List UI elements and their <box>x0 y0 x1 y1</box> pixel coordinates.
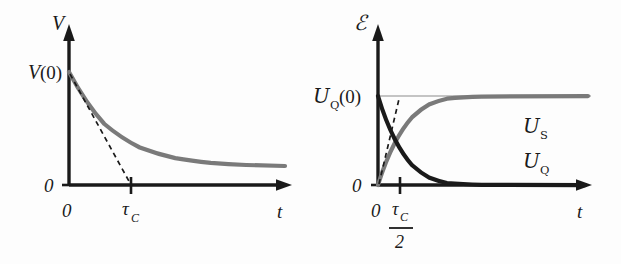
y-axis-label: V <box>52 12 67 34</box>
y-value-label-v0: V (0) <box>28 61 62 84</box>
y-origin-label: 0 <box>44 175 54 196</box>
x-origin-label: 0 <box>371 200 381 221</box>
figure-root: V V (0) 0 0 τ C t <box>0 0 621 264</box>
x-tick-label-tau-c-over-two: τ C 2 <box>389 199 413 252</box>
y-value-label-paren: (0) <box>40 62 62 84</box>
y-value-label-main: U <box>313 84 331 108</box>
x-axis-arrowhead <box>276 179 292 191</box>
curve-label-uq-subscript: Q <box>540 163 549 177</box>
y-axis-arrowhead <box>63 24 75 41</box>
y-axis-arrowhead <box>372 24 384 41</box>
x-tick-label-tau: τ <box>122 198 130 219</box>
y-axis-label: ℰ <box>354 11 369 35</box>
x-tick-label-tau: τ <box>392 199 399 219</box>
voltage-decay-svg: V V (0) 0 0 τ C t <box>0 0 310 264</box>
curve-uq-falling <box>378 96 585 185</box>
chart-panel-energy-curves: ℰ U Q (0) 0 0 τ C 2 t U S U <box>310 0 621 264</box>
y-axis-group <box>63 24 75 186</box>
x-tick-label-denominator: 2 <box>395 232 404 252</box>
tangent-line-dashed <box>70 74 131 184</box>
y-value-label-uq0: U Q (0) <box>313 84 361 112</box>
x-tick-label-tau-c: τ C <box>122 198 140 225</box>
curve-us-rising <box>378 96 588 185</box>
x-tick-label-tau-subscript: C <box>400 210 409 224</box>
curve-label-us: U S <box>523 114 548 142</box>
x-axis-label: t <box>277 201 283 222</box>
curve-voltage-decay <box>69 72 285 166</box>
chart-panel-voltage-decay: V V (0) 0 0 τ C t <box>0 0 310 264</box>
x-axis-group <box>69 179 292 191</box>
y-value-label-paren: (0) <box>339 86 361 108</box>
curve-label-uq-main: U <box>523 149 541 173</box>
energy-curves-svg: ℰ U Q (0) 0 0 τ C 2 t U S U <box>310 0 621 264</box>
x-tick-label-tau-subscript: C <box>131 211 140 225</box>
curve-label-us-main: U <box>523 114 541 138</box>
curve-label-us-subscript: S <box>540 128 548 142</box>
y-origin-label: 0 <box>352 175 362 196</box>
x-axis-label: t <box>577 201 583 222</box>
x-origin-label: 0 <box>62 200 72 221</box>
curve-label-uq: U Q <box>523 149 549 177</box>
